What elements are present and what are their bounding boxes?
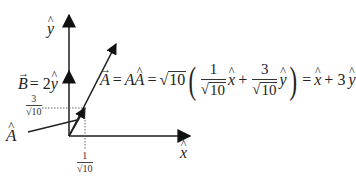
fraction-3-over-sqrt10: 3 √10: [252, 62, 277, 99]
y-hat-label: y: [47, 21, 54, 37]
sqrt-10: √10: [159, 71, 186, 89]
b-vector-label: B= 2y: [18, 76, 58, 92]
right-paren: ): [289, 61, 297, 99]
a-vector-equation: A = AA = √10 ( 1 √10 x + 3 √10 y ) = x +…: [100, 58, 356, 102]
a-hat-label: A: [6, 127, 16, 144]
left-paren: (: [189, 61, 197, 99]
x-hat-label: x: [180, 145, 187, 161]
fraction-1-over-sqrt10: 1 √10: [201, 62, 226, 99]
x-component-label: 1 √10: [77, 151, 93, 174]
y-component-label: 3 √10: [26, 94, 42, 117]
